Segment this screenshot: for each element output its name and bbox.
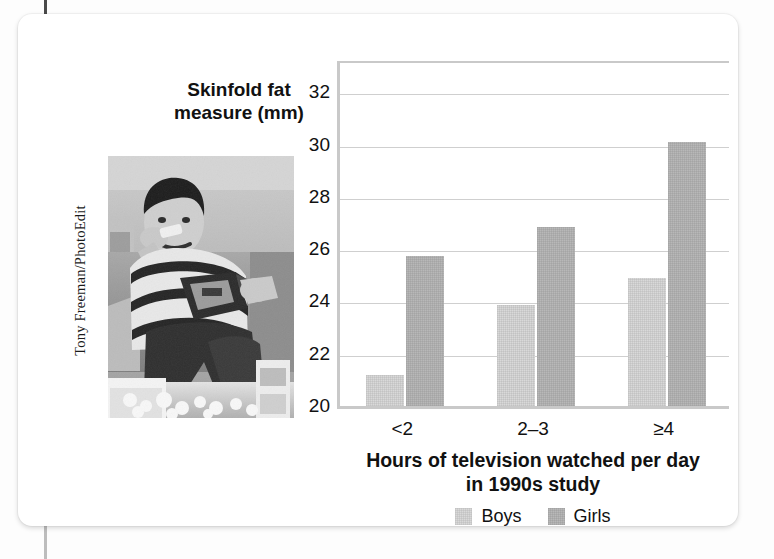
x-axis-title-line1: Hours of television watched per day bbox=[337, 448, 729, 472]
bar-boys-2 bbox=[497, 305, 535, 406]
legend-label-boys: Boys bbox=[481, 506, 521, 527]
page-registration-tick-bottom bbox=[44, 522, 47, 559]
bar-girls-3 bbox=[668, 142, 706, 406]
plot-area bbox=[337, 61, 729, 409]
chart-legend: BoysGirls bbox=[337, 506, 729, 527]
bar-girls-2 bbox=[537, 227, 575, 406]
legend-swatch-boys bbox=[455, 508, 472, 525]
y-axis-tick-label: 20 bbox=[290, 395, 330, 417]
legend-swatch-girls bbox=[548, 508, 565, 525]
legend-item-girls[interactable]: Girls bbox=[548, 506, 611, 527]
figure-card: Tony Freeman/PhotoEdit bbox=[18, 14, 738, 526]
x-axis-title-line2: in 1990s study bbox=[337, 472, 729, 496]
bar-chart: Skinfold fat measure (mm) 32302826242220… bbox=[114, 60, 730, 520]
x-axis-tick-label: <2 bbox=[342, 418, 462, 440]
bar-boys-1 bbox=[366, 375, 404, 406]
legend-label-girls: Girls bbox=[574, 506, 611, 527]
y-axis-tick-label: 22 bbox=[290, 343, 330, 365]
x-axis-tick-label: ≥4 bbox=[604, 418, 724, 440]
x-axis-tick-label: 2–3 bbox=[473, 418, 593, 440]
scanned-page: Tony Freeman/PhotoEdit bbox=[0, 0, 774, 559]
y-axis-tick-label: 32 bbox=[290, 81, 330, 103]
y-axis-tick-label: 30 bbox=[290, 134, 330, 156]
bar-boys-3 bbox=[628, 278, 666, 406]
y-axis-tick-label: 24 bbox=[290, 290, 330, 312]
photo-credit: Tony Freeman/PhotoEdit bbox=[72, 181, 89, 381]
page-registration-tick-top bbox=[44, 0, 47, 14]
y-axis-tick-labels: 32302826242220 bbox=[284, 61, 330, 409]
bar-girls-1 bbox=[406, 256, 444, 406]
plot-inner bbox=[340, 63, 729, 406]
x-axis-title: Hours of television watched per day in 1… bbox=[337, 448, 729, 497]
legend-item-boys[interactable]: Boys bbox=[455, 506, 521, 527]
y-axis-tick-label: 28 bbox=[290, 186, 330, 208]
y-axis-tick-label: 26 bbox=[290, 238, 330, 260]
gridline bbox=[340, 94, 729, 95]
